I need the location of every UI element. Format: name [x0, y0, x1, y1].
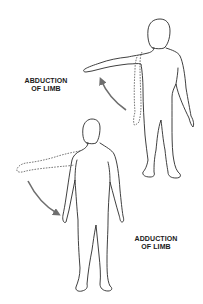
abduction-label: ABDUCTION OF LIMB: [18, 77, 74, 93]
adduction-label-line2: OF LIMB: [128, 243, 184, 251]
lower-human-figure: [63, 119, 124, 291]
upper-right-arm-inner: [176, 68, 178, 84]
adduction-arrow: [28, 181, 58, 214]
adduction-label-line1: ADDUCTION: [128, 235, 184, 243]
abduction-label-line1: ABDUCTION: [18, 77, 74, 85]
abduction-label-line2: OF LIMB: [18, 85, 74, 93]
lower-left-arm-inner: [75, 160, 77, 180]
upper-head-outline: [148, 19, 170, 49]
diagram-canvas: [0, 0, 203, 304]
adduction-label: ADDUCTION OF LIMB: [128, 235, 184, 251]
upper-body-outline: [84, 48, 194, 178]
abduction-arrow: [101, 80, 126, 110]
lower-head-outline: [83, 119, 100, 144]
lower-right-arm-inner: [108, 162, 110, 182]
upper-human-figure: [84, 19, 194, 178]
upper-dashed-arm: [134, 52, 142, 125]
